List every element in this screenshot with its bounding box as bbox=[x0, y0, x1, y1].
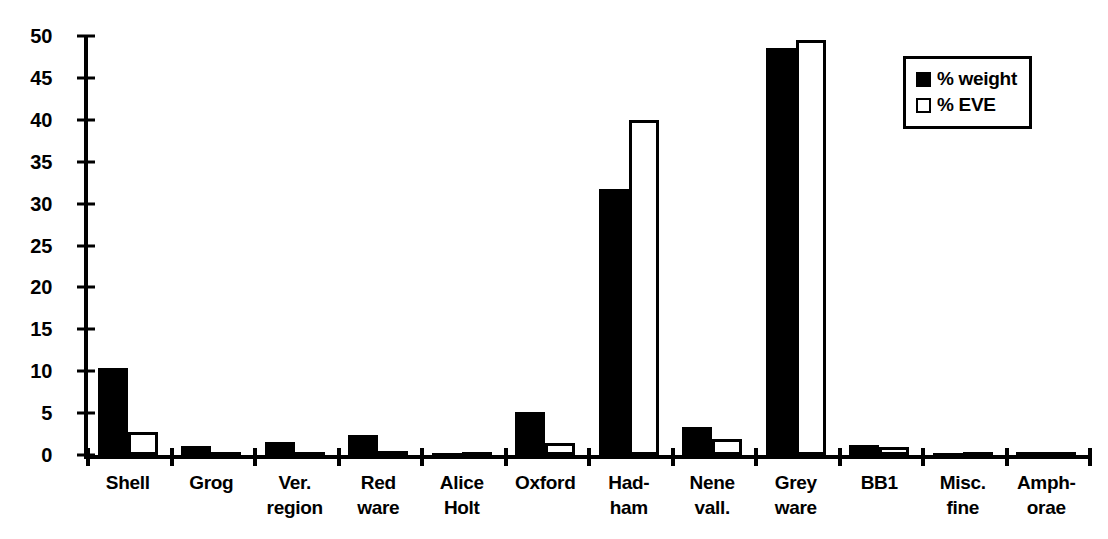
bar-weight bbox=[348, 435, 378, 455]
y-tick-label: 35 bbox=[30, 152, 52, 172]
bar-weight bbox=[515, 412, 545, 455]
x-axis-label: Shell bbox=[86, 470, 170, 495]
bar-chart: 05101520253035404550 ShellGrogVer.region… bbox=[0, 0, 1108, 539]
x-tick-mark bbox=[671, 448, 675, 466]
bar-group bbox=[348, 36, 408, 455]
x-axis-label: BB1 bbox=[838, 470, 922, 495]
bar-weight bbox=[766, 48, 796, 455]
x-axis-label-line2: vall. bbox=[671, 495, 755, 520]
x-axis-label-line1: Nene bbox=[690, 472, 735, 493]
x-tick-mark bbox=[337, 448, 341, 466]
x-axis-label-line1: Shell bbox=[106, 472, 150, 493]
legend: % weight% EVE bbox=[903, 56, 1032, 129]
y-tick-label: 25 bbox=[30, 236, 52, 256]
x-tick-mark bbox=[1088, 448, 1092, 466]
x-axis-label-line1: Oxford bbox=[515, 472, 575, 493]
x-axis-label-line1: Red bbox=[361, 472, 396, 493]
x-axis-label-line1: Misc. bbox=[940, 472, 986, 493]
bar-eve bbox=[796, 40, 826, 455]
x-axis-label: Misc.fine bbox=[921, 470, 1005, 520]
y-tick-label: 10 bbox=[30, 361, 52, 381]
x-axis-label-line2: ware bbox=[337, 495, 421, 520]
x-tick-mark bbox=[587, 448, 591, 466]
x-axis-label-line2: fine bbox=[921, 495, 1005, 520]
x-axis-label: Redware bbox=[337, 470, 421, 520]
bar-group bbox=[849, 36, 909, 455]
x-axis-label-line1: Alice bbox=[440, 472, 484, 493]
bar-group bbox=[682, 36, 742, 455]
x-axis-labels: ShellGrogVer.regionRedwareAliceHoltOxfor… bbox=[86, 470, 1088, 539]
x-axis-label: Oxford bbox=[504, 470, 588, 495]
bar-eve bbox=[629, 120, 659, 455]
x-axis-label: Ver.region bbox=[253, 470, 337, 520]
x-tick-mark bbox=[1005, 448, 1009, 466]
x-tick-mark bbox=[504, 448, 508, 466]
bar-group bbox=[766, 36, 826, 455]
y-tick-label: 30 bbox=[30, 194, 52, 214]
x-axis-label-line1: Grey bbox=[775, 472, 817, 493]
y-tick-label: 50 bbox=[30, 26, 52, 46]
legend-label: % weight bbox=[937, 68, 1017, 90]
legend-label: % EVE bbox=[937, 94, 996, 116]
x-axis-label: Had-ham bbox=[587, 470, 671, 520]
bar-eve bbox=[879, 447, 909, 455]
x-axis-label: AliceHolt bbox=[420, 470, 504, 520]
x-axis-label: Grog bbox=[170, 470, 254, 495]
bar-weight bbox=[849, 445, 879, 455]
x-axis-label-line2: ham bbox=[587, 495, 671, 520]
legend-item: % weight bbox=[916, 66, 1017, 92]
bar-eve bbox=[128, 432, 158, 455]
bar-weight bbox=[98, 368, 128, 455]
x-axis-label: Greyware bbox=[754, 470, 838, 520]
bar-weight bbox=[265, 442, 295, 455]
x-tick-mark bbox=[253, 448, 257, 466]
x-tick-mark bbox=[754, 448, 758, 466]
x-axis-label: Amph-orae bbox=[1005, 470, 1089, 520]
x-axis-label-line2: ware bbox=[754, 495, 838, 520]
bar-group bbox=[181, 36, 241, 455]
bar-group bbox=[432, 36, 492, 455]
bar-group bbox=[265, 36, 325, 455]
y-tick-label: 15 bbox=[30, 319, 52, 339]
y-tick-label: 40 bbox=[30, 110, 52, 130]
x-axis-label-line1: Ver. bbox=[278, 472, 311, 493]
x-axis-label-line2: region bbox=[253, 495, 337, 520]
bar-eve bbox=[712, 439, 742, 455]
bar-group bbox=[98, 36, 158, 455]
bar-weight bbox=[181, 446, 211, 455]
x-tick-mark bbox=[170, 448, 174, 466]
x-tick-mark bbox=[420, 448, 424, 466]
y-tick-label: 45 bbox=[30, 68, 52, 88]
y-tick-label: 0 bbox=[41, 445, 52, 465]
x-tick-mark bbox=[921, 448, 925, 466]
legend-item: % EVE bbox=[916, 92, 1017, 118]
x-axis-label-line1: Amph- bbox=[1017, 472, 1076, 493]
y-axis: 05101520253035404550 bbox=[0, 0, 90, 539]
bar-group bbox=[515, 36, 575, 455]
x-axis-label-line2: Holt bbox=[420, 495, 504, 520]
x-axis-label-line1: BB1 bbox=[861, 472, 898, 493]
y-tick-label: 5 bbox=[41, 403, 52, 423]
x-axis-label-line1: Had- bbox=[608, 472, 649, 493]
bar-eve bbox=[545, 443, 575, 455]
x-axis-label-line2: orae bbox=[1005, 495, 1089, 520]
x-axis-label-line1: Grog bbox=[189, 472, 233, 493]
bar-group bbox=[599, 36, 659, 455]
bar-weight bbox=[599, 189, 629, 455]
legend-swatch-hollow-icon bbox=[916, 98, 931, 113]
bar-weight bbox=[682, 427, 712, 455]
x-tick-mark bbox=[838, 448, 842, 466]
y-tick-label: 20 bbox=[30, 277, 52, 297]
legend-swatch-filled-icon bbox=[916, 72, 931, 87]
x-axis-label: Nenevall. bbox=[671, 470, 755, 520]
x-tick-mark bbox=[86, 448, 90, 466]
